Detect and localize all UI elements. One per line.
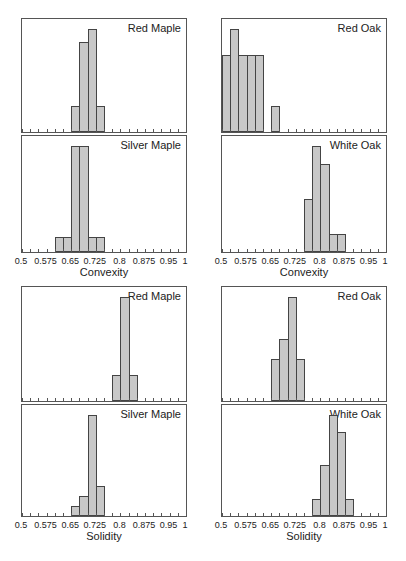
x-axis-ticks bbox=[222, 248, 386, 253]
tick-mark bbox=[47, 129, 48, 133]
tick-mark bbox=[329, 513, 330, 517]
tick-mark bbox=[271, 249, 272, 253]
tick-mark bbox=[320, 513, 321, 517]
tick-mark bbox=[370, 249, 371, 253]
tick-mark bbox=[120, 513, 121, 517]
tick-mark bbox=[312, 249, 313, 253]
tick-mark bbox=[271, 513, 272, 517]
panel-title: Red Oak bbox=[338, 22, 381, 34]
tick-label: 0.5 bbox=[215, 256, 228, 266]
tick-mark bbox=[63, 129, 64, 133]
tick-mark bbox=[271, 398, 272, 402]
tick-mark bbox=[112, 513, 113, 517]
tick-mark bbox=[279, 129, 280, 133]
tick-label: 0.65 bbox=[261, 256, 279, 266]
tick-mark bbox=[230, 398, 231, 402]
tick-mark bbox=[370, 513, 371, 517]
tick-label: 1 bbox=[182, 256, 187, 266]
tick-mark bbox=[22, 249, 23, 253]
tick-mark bbox=[296, 129, 297, 133]
tick-mark bbox=[247, 398, 248, 402]
tick-mark bbox=[386, 513, 387, 517]
tick-mark bbox=[129, 129, 130, 133]
tick-mark bbox=[320, 398, 321, 402]
tick-mark bbox=[263, 249, 264, 253]
tick-mark bbox=[55, 398, 56, 402]
tick-mark bbox=[263, 129, 264, 133]
tick-mark bbox=[296, 249, 297, 253]
tick-label: 0.95 bbox=[160, 256, 178, 266]
x-axis-ticks bbox=[22, 128, 186, 133]
tick-mark bbox=[378, 398, 379, 402]
tick-mark bbox=[312, 398, 313, 402]
tick-mark bbox=[255, 398, 256, 402]
x-axis-ticks bbox=[222, 128, 386, 133]
tick-mark bbox=[30, 513, 31, 517]
x-axis-label: Convexity bbox=[280, 266, 328, 278]
tick-label: 0.875 bbox=[333, 256, 356, 266]
tick-label: 0.5 bbox=[15, 256, 28, 266]
tick-mark bbox=[104, 249, 105, 253]
tick-mark bbox=[247, 513, 248, 517]
tick-mark bbox=[30, 398, 31, 402]
tick-mark bbox=[71, 249, 72, 253]
tick-label: 0.65 bbox=[61, 256, 79, 266]
tick-mark bbox=[378, 129, 379, 133]
tick-mark bbox=[88, 249, 89, 253]
tick-mark bbox=[55, 249, 56, 253]
x-axis-ticks bbox=[22, 248, 186, 253]
tick-mark bbox=[361, 129, 362, 133]
tick-mark bbox=[222, 249, 223, 253]
tick-mark bbox=[55, 129, 56, 133]
histogram-panel: Red Oak bbox=[221, 18, 387, 133]
tick-mark bbox=[337, 129, 338, 133]
panel-title: White Oak bbox=[330, 139, 381, 151]
tick-mark bbox=[288, 513, 289, 517]
tick-mark bbox=[345, 249, 346, 253]
tick-mark bbox=[71, 513, 72, 517]
tick-mark bbox=[320, 249, 321, 253]
tick-mark bbox=[361, 513, 362, 517]
tick-mark bbox=[288, 398, 289, 402]
tick-mark bbox=[337, 398, 338, 402]
tick-mark bbox=[96, 513, 97, 517]
tick-mark bbox=[137, 398, 138, 402]
tick-mark bbox=[230, 249, 231, 253]
tick-mark bbox=[222, 129, 223, 133]
tick-mark bbox=[153, 513, 154, 517]
histogram-panel: Silver Maple bbox=[21, 404, 187, 517]
tick-mark bbox=[112, 398, 113, 402]
tick-mark bbox=[312, 513, 313, 517]
tick-mark bbox=[79, 513, 80, 517]
tick-mark bbox=[145, 129, 146, 133]
x-axis-ticks bbox=[222, 512, 386, 517]
tick-label: 0.5 bbox=[15, 520, 28, 530]
histogram-panel: White Oak bbox=[221, 404, 387, 517]
tick-mark bbox=[120, 129, 121, 133]
tick-label: 0.65 bbox=[261, 520, 279, 530]
tick-mark bbox=[22, 398, 23, 402]
tick-mark bbox=[104, 398, 105, 402]
tick-mark bbox=[345, 398, 346, 402]
tick-mark bbox=[120, 249, 121, 253]
tick-mark bbox=[279, 249, 280, 253]
tick-mark bbox=[30, 129, 31, 133]
tick-mark bbox=[153, 129, 154, 133]
tick-label: 0.875 bbox=[333, 520, 356, 530]
tick-mark bbox=[238, 398, 239, 402]
tick-mark bbox=[178, 249, 179, 253]
tick-mark bbox=[170, 129, 171, 133]
tick-label: 0.5 bbox=[215, 520, 228, 530]
tick-label: 0.875 bbox=[133, 520, 156, 530]
tick-mark bbox=[304, 249, 305, 253]
histogram-panel: Red Oak bbox=[221, 286, 387, 402]
tick-mark bbox=[329, 249, 330, 253]
tick-mark bbox=[145, 398, 146, 402]
panel-title: Silver Maple bbox=[120, 139, 181, 151]
tick-label: 1 bbox=[382, 520, 387, 530]
tick-mark bbox=[161, 513, 162, 517]
tick-mark bbox=[353, 398, 354, 402]
tick-mark bbox=[186, 129, 187, 133]
tick-mark bbox=[79, 129, 80, 133]
tick-label: 0.8 bbox=[113, 256, 126, 266]
